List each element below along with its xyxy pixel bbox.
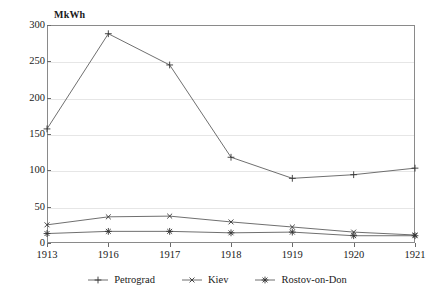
legend-marker-x-cross bbox=[181, 274, 203, 286]
y-tick-mark bbox=[47, 207, 51, 208]
legend-label: Rostov-on-Don bbox=[281, 274, 346, 286]
y-tick-label: 300 bbox=[3, 20, 45, 30]
x-tick-mark bbox=[354, 243, 355, 247]
legend-item-petrograd[interactable]: Petrograd bbox=[87, 274, 155, 286]
gridline bbox=[48, 99, 414, 100]
y-tick-mark bbox=[47, 25, 51, 26]
legend-marker-asterisk bbox=[254, 274, 276, 286]
data-point-marker bbox=[262, 277, 269, 284]
y-tick-label: 200 bbox=[3, 93, 45, 103]
chart-legend: PetrogradKievRostov-on-Don bbox=[0, 274, 434, 286]
x-tick-label: 1921 bbox=[405, 249, 426, 261]
legend-item-kiev[interactable]: Kiev bbox=[181, 274, 228, 286]
y-tick-mark bbox=[47, 134, 51, 135]
plot-area bbox=[47, 25, 415, 243]
y-tick-label: 150 bbox=[3, 129, 45, 139]
x-tick-label: 1920 bbox=[343, 249, 364, 261]
x-tick-label: 1919 bbox=[282, 249, 303, 261]
x-tick-mark bbox=[231, 243, 232, 247]
legend-label: Petrograd bbox=[114, 274, 155, 286]
x-tick-label: 1913 bbox=[37, 249, 58, 261]
y-tick-label: 250 bbox=[3, 56, 45, 66]
gridline bbox=[48, 135, 414, 136]
gridline bbox=[48, 171, 414, 172]
gridline bbox=[48, 208, 414, 209]
x-tick-label: 1918 bbox=[221, 249, 242, 261]
x-tick-mark bbox=[108, 243, 109, 247]
y-tick-mark bbox=[47, 61, 51, 62]
legend-label: Kiev bbox=[208, 274, 228, 286]
x-tick-mark bbox=[415, 243, 416, 247]
x-tick-mark bbox=[170, 243, 171, 247]
y-tick-label: 0 bbox=[3, 238, 45, 248]
x-tick-mark bbox=[292, 243, 293, 247]
legend-marker-plus bbox=[87, 274, 109, 286]
y-tick-label: 100 bbox=[3, 165, 45, 175]
y-tick-mark bbox=[47, 98, 51, 99]
y-tick-label: 50 bbox=[3, 202, 45, 212]
line-chart: MkWh 050100150200250300 1913191619171918… bbox=[0, 0, 434, 300]
gridline bbox=[48, 62, 414, 63]
y-tick-mark bbox=[47, 170, 51, 171]
x-tick-label: 1917 bbox=[159, 249, 180, 261]
y-axis-unit-label: MkWh bbox=[54, 9, 85, 20]
x-tick-label: 1916 bbox=[98, 249, 119, 261]
data-point-marker bbox=[95, 277, 102, 284]
y-tick-mark bbox=[47, 243, 51, 244]
legend-item-rostov-on-don[interactable]: Rostov-on-Don bbox=[254, 274, 346, 286]
